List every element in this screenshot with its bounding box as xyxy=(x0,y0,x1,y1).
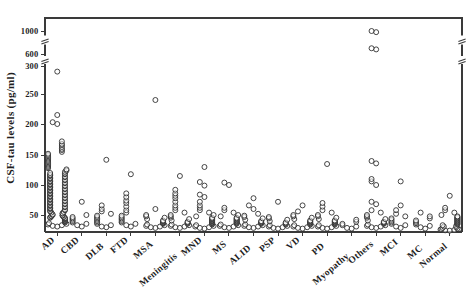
data-point xyxy=(197,192,202,197)
x-axis-tick-label-ms: MS xyxy=(210,239,228,256)
data-point xyxy=(364,213,369,218)
data-point xyxy=(439,213,444,218)
data-point xyxy=(95,213,100,218)
data-point xyxy=(153,98,158,103)
data-point xyxy=(75,223,80,228)
data-point xyxy=(144,213,149,218)
data-point xyxy=(369,29,374,34)
data-point xyxy=(251,196,256,201)
series-mc xyxy=(414,210,433,231)
y-axis-tick-label: 300 xyxy=(25,61,38,71)
series-myopathy xyxy=(340,217,359,231)
series-ad xyxy=(46,69,69,229)
data-point xyxy=(291,213,296,218)
data-point xyxy=(218,214,223,219)
series-ftd xyxy=(119,172,138,229)
data-point xyxy=(418,225,423,230)
right-axis-break-mark xyxy=(458,36,465,45)
y-axis-tick-label: 50 xyxy=(30,210,39,220)
data-point xyxy=(59,139,64,144)
x-axis-tick-label-others: Others xyxy=(346,239,375,266)
data-point xyxy=(276,199,281,204)
y-axis-tick-label: 250 xyxy=(25,89,38,99)
data-point xyxy=(133,221,138,226)
data-point xyxy=(369,159,374,164)
data-point xyxy=(168,213,173,218)
data-point xyxy=(394,224,399,229)
data-point xyxy=(383,217,388,222)
data-point xyxy=(403,223,408,228)
data-point xyxy=(452,210,457,215)
data-point xyxy=(443,205,448,210)
data-point xyxy=(104,157,109,162)
data-point xyxy=(329,210,334,215)
data-point xyxy=(414,218,419,223)
data-point xyxy=(334,215,339,220)
data-point xyxy=(222,180,227,185)
data-point xyxy=(124,191,129,196)
data-point xyxy=(202,183,207,188)
data-point xyxy=(354,217,359,222)
data-point xyxy=(173,187,178,192)
data-point xyxy=(124,223,129,228)
series-msa xyxy=(144,98,167,231)
data-point xyxy=(266,215,271,220)
x-axis-tick-label-vd: VD xyxy=(284,235,301,252)
x-axis-tick-label-alid: ALID xyxy=(227,243,253,267)
data-point xyxy=(182,210,187,215)
y-axis-tick-label: 200 xyxy=(25,119,38,129)
series-vd xyxy=(291,203,314,231)
y-axis-tick-label: 1000 xyxy=(21,26,39,36)
data-point xyxy=(194,214,199,219)
series-others xyxy=(364,29,387,231)
x-axis-tick-label-normal: Normal xyxy=(417,241,449,270)
data-point xyxy=(340,221,345,226)
y-axis-tick-label: 600 xyxy=(25,49,38,59)
x-axis-tick-label-meningitis: Meningitis xyxy=(137,251,179,288)
x-axis-tick-label-ad: AD xyxy=(39,235,56,252)
series-mci xyxy=(389,179,408,231)
data-point xyxy=(427,214,432,219)
data-point xyxy=(55,69,60,74)
data-point xyxy=(389,216,394,221)
data-point xyxy=(320,201,325,206)
data-point xyxy=(128,172,133,177)
data-point xyxy=(315,213,320,218)
data-point xyxy=(325,162,330,167)
y-axis-break-mark-lower xyxy=(41,56,48,64)
data-point xyxy=(418,210,423,215)
data-point xyxy=(316,223,321,228)
data-point xyxy=(46,151,51,156)
series-ms xyxy=(217,180,240,230)
data-point xyxy=(202,165,207,170)
series-dlb xyxy=(95,157,114,229)
data-point xyxy=(108,223,113,228)
data-point xyxy=(403,214,408,219)
data-point xyxy=(177,174,182,179)
data-point xyxy=(64,167,69,172)
data-point xyxy=(119,213,124,218)
y-axis-break-mark xyxy=(41,36,48,45)
series-alid xyxy=(242,196,265,231)
data-point xyxy=(187,217,192,222)
data-point xyxy=(398,203,403,208)
data-point xyxy=(369,177,374,182)
data-point xyxy=(194,223,199,228)
data-point xyxy=(427,223,432,228)
data-point xyxy=(222,205,227,210)
data-point xyxy=(242,213,247,218)
x-axis-tick-label-msa: MSA xyxy=(131,239,154,261)
data-point xyxy=(256,211,261,216)
x-axis-tick-label-ftd: FTD xyxy=(108,235,130,255)
data-point xyxy=(447,193,452,198)
series-psp xyxy=(266,199,289,231)
data-point xyxy=(84,213,89,218)
data-point xyxy=(48,171,53,176)
data-point xyxy=(354,224,359,229)
data-point xyxy=(50,120,55,125)
data-point xyxy=(300,203,305,208)
y-axis-tick-label: 150 xyxy=(25,150,38,160)
series-cbd xyxy=(70,199,89,229)
data-point xyxy=(292,223,297,228)
data-point xyxy=(398,179,403,184)
